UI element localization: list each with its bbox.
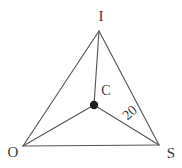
triangle-diagram: I O S C 20 xyxy=(0,0,182,168)
triangle-edges xyxy=(23,31,159,146)
segment-O-C xyxy=(23,105,94,146)
cevian-segments xyxy=(23,31,159,146)
center-point-dot xyxy=(90,101,98,109)
geometry-figure: I O S C 20 xyxy=(0,0,182,168)
segment-I-C xyxy=(94,31,99,105)
vertex-label-right: S xyxy=(167,145,175,161)
figure-labels: I O S C 20 xyxy=(8,8,176,161)
segment-length-label: 20 xyxy=(119,102,139,123)
edge-O-I xyxy=(23,31,99,146)
edge-O-S xyxy=(23,145,159,146)
vertex-label-top: I xyxy=(99,8,104,24)
center-point-label: C xyxy=(101,83,110,98)
vertex-label-left: O xyxy=(8,144,19,160)
